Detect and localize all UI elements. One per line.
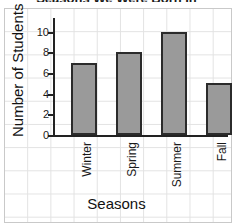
bar-fall [206,83,232,135]
y-tick-label-4: 4 [43,88,49,99]
y-tick-label-2: 2 [43,109,49,120]
category-label-fall: Fall [216,142,228,161]
bar-winter [71,63,97,136]
x-axis-line [53,135,228,137]
x-axis-title: Seasons [0,196,233,211]
y-tick-label-6: 6 [43,67,49,78]
chart-title: Seasons We Were Born In [0,0,233,2]
category-label-spring: Spring [126,142,138,177]
bar-chart: Seasons We Were Born In 0 2 4 6 8 10 [0,0,233,224]
y-tick-label-10: 10 [37,26,49,37]
category-label-summer: Summer [171,142,183,187]
y-tick-label-8: 8 [43,47,49,58]
category-label-winter: Winter [81,142,93,177]
y-axis-title: Number of Students [10,4,25,137]
y-tick-label-0: 0 [43,130,49,141]
y-axis-line [53,18,55,137]
bar-summer [161,32,187,136]
bar-spring [116,52,142,135]
plot-area: 0 2 4 6 8 10 Winter Spring Summer Fall [53,18,228,137]
